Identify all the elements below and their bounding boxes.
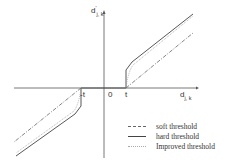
soft-threshold-swatch-icon: [128, 126, 146, 127]
legend-label-improved: Improved threshold: [156, 142, 215, 151]
x-label-sub: j, k: [184, 95, 191, 101]
tick-neg-t: -t: [80, 91, 85, 99]
y-label-sub: j, k: [97, 11, 104, 17]
legend-item-improved: Improved threshold: [128, 141, 215, 151]
y-axis-label: d'j, k: [91, 6, 104, 17]
x-axis-label: dj, k: [180, 91, 191, 101]
improved-threshold-swatch-icon: [128, 146, 146, 147]
tick-t: t: [125, 91, 127, 99]
legend: soft threshold hard threshold Improved t…: [128, 121, 215, 151]
y-axis: [103, 10, 106, 158]
tick-zero: 0: [108, 91, 112, 99]
legend-item-soft: soft threshold: [128, 121, 215, 131]
hard-threshold-swatch-icon: [128, 136, 146, 137]
legend-label-hard: hard threshold: [156, 132, 199, 141]
legend-label-soft: soft threshold: [156, 122, 197, 131]
legend-item-hard: hard threshold: [128, 131, 215, 141]
